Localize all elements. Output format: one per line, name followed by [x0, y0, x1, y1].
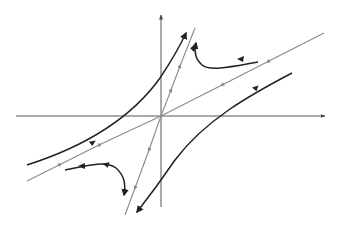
arrow-icon: [237, 56, 244, 62]
phase-portrait-canvas: [0, 0, 345, 231]
arrow-icon: [78, 163, 85, 169]
unstable-eigenline-upper: [161, 28, 195, 116]
trajectories: [27, 33, 292, 212]
stable-eigenline-upper: [161, 33, 324, 116]
phase-portrait-diagram: [0, 0, 345, 231]
unstable-eigenline: [125, 28, 195, 215]
trajectory-upper-left: [27, 33, 186, 165]
trajectory-lower-right: [137, 73, 292, 212]
arrow-icon: [89, 141, 96, 147]
arrow-icon: [252, 85, 259, 92]
trajectory-lower-left: [65, 164, 125, 195]
trajectory-upper-right: [195, 43, 258, 68]
